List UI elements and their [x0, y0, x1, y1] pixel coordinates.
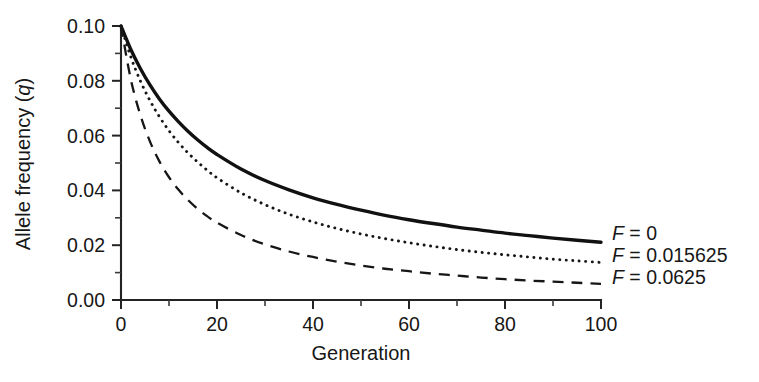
x-tick-label: 40	[302, 313, 324, 335]
legend-label-0: F = 0	[612, 222, 657, 244]
chart-legend: F = 0F = 0.015625F = 0.0625	[552, 222, 728, 288]
x-axis-tick-labels: 020406080100	[116, 313, 618, 335]
y-axis-title: Allele frequency (q)	[12, 78, 34, 250]
x-tick-label: 0	[116, 313, 127, 335]
series-line-dotted	[121, 26, 601, 262]
y-tick-label: 0.04	[67, 179, 105, 201]
x-tick-label: 80	[494, 313, 516, 335]
legend-label-2: F = 0.0625	[612, 266, 706, 288]
y-axis-ticks	[112, 26, 121, 300]
x-tick-label: 100	[585, 313, 618, 335]
series-line-dashed	[121, 26, 601, 284]
legend-label-1: F = 0.015625	[612, 244, 728, 266]
y-tick-label: 0.08	[67, 70, 105, 92]
x-axis-ticks	[121, 300, 601, 309]
x-tick-label: 20	[206, 313, 228, 335]
y-tick-label: 0.10	[67, 15, 105, 37]
y-tick-label: 0.06	[67, 125, 105, 147]
x-tick-label: 60	[398, 313, 420, 335]
y-tick-label: 0.00	[67, 289, 105, 311]
y-tick-label: 0.02	[67, 234, 105, 256]
data-series-group	[121, 26, 601, 284]
axes-group	[121, 26, 601, 300]
figure-container: 0.000.020.040.060.080.10 020406080100 Ge…	[0, 0, 759, 382]
x-axis-title: Generation	[312, 342, 411, 364]
y-axis-tick-labels: 0.000.020.040.060.080.10	[67, 15, 105, 311]
series-line-solid	[121, 26, 601, 242]
chart-canvas: 0.000.020.040.060.080.10 020406080100 Ge…	[0, 0, 759, 382]
